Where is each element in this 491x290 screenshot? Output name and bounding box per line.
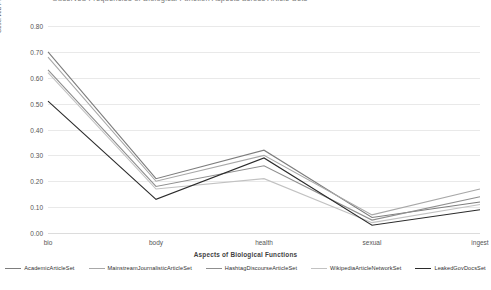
legend-item[interactable]: WikipediaArticleNetworkSet [311, 266, 401, 272]
y-tick-label: 0.40 [30, 126, 43, 133]
y-axis-title: Observed Frequencies in Percentages [0, 0, 2, 56]
x-axis-title: Aspects of Biological Functions [0, 251, 491, 258]
series-lines [48, 26, 480, 233]
chart-title: Observed Frequencies of Biological Funct… [0, 0, 491, 4]
x-tick-label: ingest [471, 239, 488, 246]
legend-item[interactable]: HashtagDiscourseArticleSet [206, 266, 297, 272]
legend-item[interactable]: LeakedGovDocsSet [415, 266, 485, 272]
line-chart: Observed Frequencies of Biological Funct… [0, 0, 491, 290]
legend-swatch [311, 268, 327, 269]
legend-label: HashtagDiscourseArticleSet [225, 266, 297, 272]
legend-swatch [415, 268, 431, 269]
legend-label: LeakedGovDocsSet [434, 266, 485, 272]
series-line [48, 57, 480, 215]
x-tick-label: health [255, 239, 273, 246]
y-tick-label: 0.70 [30, 48, 43, 55]
legend: AcademicArticleSetMainstreamJournalistic… [0, 266, 491, 272]
y-tick-label: 0.30 [30, 152, 43, 159]
y-tick-label: 0.50 [30, 100, 43, 107]
gridline [48, 233, 480, 234]
y-tick-label: 0.80 [30, 23, 43, 30]
legend-item[interactable]: MainstreamJournalisticArticleSet [89, 266, 192, 272]
y-tick-label: 0.20 [30, 178, 43, 185]
y-tick-label: 0.10 [30, 204, 43, 211]
y-tick-label: 0.00 [30, 230, 43, 237]
x-tick-label: sexual [363, 239, 382, 246]
legend-item[interactable]: AcademicArticleSet [5, 266, 74, 272]
series-line [48, 52, 480, 218]
legend-label: WikipediaArticleNetworkSet [330, 266, 401, 272]
x-tick-label: body [149, 239, 163, 246]
series-line [48, 70, 480, 220]
legend-swatch [89, 268, 105, 269]
legend-label: MainstreamJournalisticArticleSet [108, 266, 192, 272]
series-line [48, 73, 480, 223]
series-line [48, 101, 480, 225]
legend-swatch [5, 268, 21, 269]
plot-area: 0.800.700.600.500.400.300.200.100.00 bio… [48, 26, 480, 233]
legend-label: AcademicArticleSet [24, 266, 74, 272]
x-tick-label: bio [44, 239, 53, 246]
y-tick-label: 0.60 [30, 74, 43, 81]
legend-swatch [206, 268, 222, 269]
